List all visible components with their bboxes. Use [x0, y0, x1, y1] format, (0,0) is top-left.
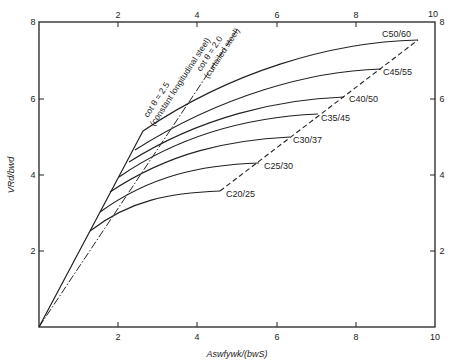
y-axis-right-labels: 2 4 6 8 — [439, 17, 444, 256]
right-tick-4: 4 — [439, 170, 444, 180]
x-tick-4: 4 — [194, 332, 199, 342]
top-tick-4: 4 — [194, 10, 199, 20]
x-axis-title: Aswfywk/(bwS) — [205, 349, 267, 359]
curve-c25-30 — [100, 163, 259, 212]
right-tick-6: 6 — [439, 94, 444, 104]
x-axis-top — [118, 22, 356, 27]
y-axis-title: VRd/bwd — [6, 156, 16, 194]
y-tick-2: 2 — [30, 246, 35, 256]
y-tick-4: 4 — [30, 170, 35, 180]
label-c25-30: C25/30 — [264, 161, 293, 171]
label-c20-25: C20/25 — [226, 189, 255, 199]
curve-c20-25 — [90, 191, 220, 231]
cot-2-5-line — [39, 131, 143, 327]
label-c35-45: C35/45 — [321, 113, 350, 123]
y-tick-6: 6 — [30, 94, 35, 104]
right-tick-8: 8 — [439, 17, 444, 27]
x-tick-10: 10 — [430, 332, 440, 342]
y-axis-left — [39, 99, 44, 251]
x-tick-8: 8 — [353, 332, 358, 342]
right-tick-2: 2 — [439, 246, 444, 256]
top-tick-8: 8 — [353, 10, 358, 20]
label-c30-37: C30/37 — [293, 135, 322, 145]
x-axis-top-labels: 2 4 6 8 10 — [115, 9, 438, 20]
y-tick-8: 8 — [30, 17, 35, 27]
y-axis-right — [430, 99, 435, 251]
x-tick-6: 6 — [274, 332, 279, 342]
label-c45-55: C45/55 — [383, 67, 412, 77]
top-tick-6: 6 — [274, 10, 279, 20]
shear-capacity-chart: 2 4 6 8 10 2 4 6 8 10 2 4 6 8 2 4 6 — [0, 0, 457, 361]
upper-limit-dashed-line — [220, 40, 418, 191]
plot-frame — [39, 22, 435, 327]
x-tick-2: 2 — [115, 332, 120, 342]
top-tick-10: 10 — [428, 9, 438, 19]
label-c40-50: C40/50 — [349, 94, 378, 104]
label-c50-60: C50/60 — [382, 29, 411, 39]
x-axis-bottom-labels: 2 4 6 8 10 — [115, 332, 440, 342]
y-axis-left-labels: 2 4 6 8 — [30, 17, 35, 256]
curve-c30-37 — [110, 137, 290, 192]
curves — [90, 40, 418, 231]
x-axis-bottom — [118, 322, 356, 327]
top-tick-2: 2 — [115, 10, 120, 20]
